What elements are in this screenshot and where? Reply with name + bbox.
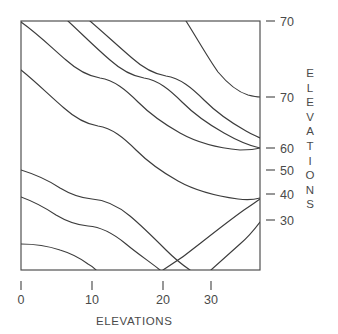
y-tick-label: 70	[280, 91, 294, 105]
y-axis-title-letter: N	[306, 184, 314, 196]
x-tick-label: 10	[85, 293, 99, 307]
y-tick-label: 50	[280, 164, 294, 178]
y-axis-title-letter: I	[308, 155, 311, 167]
contour-plot-figure: 707060504030 0102030 ELEVATIONS ELEVATIO…	[0, 0, 338, 334]
x-tick-label: 30	[204, 293, 218, 307]
y-tick-label: 60	[280, 142, 294, 156]
y-axis-title-letter: O	[306, 169, 315, 181]
x-tick-label: 0	[18, 293, 25, 307]
y-axis-title-letter: E	[306, 67, 314, 79]
y-axis-title-letter: S	[306, 198, 314, 210]
y-tick-label: 70	[280, 15, 294, 29]
y-tick-label: 40	[280, 188, 294, 202]
y-axis-title-letter: V	[306, 111, 314, 123]
y-axis-title-letter: T	[306, 140, 313, 152]
x-axis-title: ELEVATIONS	[96, 315, 173, 327]
y-axis-title-letter: L	[307, 82, 314, 94]
y-axis-title-letter: E	[306, 96, 314, 108]
y-tick-label: 30	[280, 214, 294, 228]
y-axis-title-letter: A	[306, 125, 314, 137]
x-tick-label: 20	[156, 293, 170, 307]
